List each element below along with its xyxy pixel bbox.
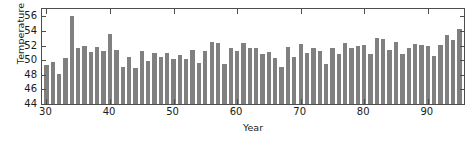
y-axis-tick-mark xyxy=(460,60,464,61)
bar xyxy=(197,63,201,104)
bar xyxy=(152,53,156,104)
bar xyxy=(146,61,150,104)
bar xyxy=(57,74,61,104)
y-axis-tick-mark xyxy=(460,46,464,47)
bar xyxy=(349,48,353,104)
y-axis-tick-mark xyxy=(460,89,464,90)
bar xyxy=(368,54,372,104)
bar xyxy=(445,35,449,104)
bar xyxy=(114,50,118,104)
x-axis-tick-label: 40 xyxy=(103,106,116,117)
x-axis-tick-mark xyxy=(301,99,302,104)
bar xyxy=(375,38,379,105)
x-axis-tick-mark xyxy=(110,9,111,14)
y-axis-tick-label: 54 xyxy=(24,24,37,35)
bar xyxy=(70,16,74,104)
x-axis-tick-label: 50 xyxy=(166,106,179,117)
x-axis-tick-mark xyxy=(174,9,175,14)
y-axis-tick-label: 44 xyxy=(24,98,37,109)
bar xyxy=(229,48,233,104)
y-axis-tick-label: 46 xyxy=(24,83,37,94)
bar xyxy=(222,64,226,104)
y-axis-tick-mark xyxy=(42,16,46,17)
bar xyxy=(248,48,252,104)
bar xyxy=(451,40,455,104)
x-axis-tick-mark xyxy=(428,99,429,104)
bar xyxy=(121,67,125,104)
bar xyxy=(140,51,144,104)
bar xyxy=(108,34,112,104)
bar xyxy=(394,42,398,104)
bar xyxy=(400,54,404,104)
bar xyxy=(337,54,341,104)
y-axis-tick-mark xyxy=(42,104,46,105)
x-axis-tick-label: 80 xyxy=(357,106,370,117)
y-axis-tick-label: 50 xyxy=(24,54,37,65)
x-axis-tick-mark xyxy=(46,9,47,14)
bar xyxy=(210,42,214,104)
bar xyxy=(89,52,93,104)
x-axis-tick-mark xyxy=(364,9,365,14)
bar xyxy=(381,39,385,104)
bar xyxy=(356,46,360,104)
bar xyxy=(82,46,86,104)
y-axis-tick-mark xyxy=(42,75,46,76)
bar xyxy=(171,59,175,104)
bar xyxy=(203,51,207,104)
plot-area xyxy=(41,8,465,105)
x-axis-tick-mark xyxy=(428,9,429,14)
x-axis-tick-mark xyxy=(237,9,238,14)
bar xyxy=(457,29,461,104)
bar xyxy=(419,45,423,104)
bar xyxy=(292,57,296,105)
bar xyxy=(267,52,271,104)
x-axis-tick-mark xyxy=(364,99,365,104)
bar xyxy=(133,68,137,104)
bar xyxy=(63,58,67,104)
x-axis-tick-label: 70 xyxy=(293,106,306,117)
x-axis-title: Year xyxy=(41,122,465,133)
bar-series xyxy=(42,9,464,104)
bar xyxy=(387,50,391,104)
y-axis-tick-label: 48 xyxy=(24,68,37,79)
bar xyxy=(178,55,182,104)
y-axis-tick-mark xyxy=(42,89,46,90)
bar xyxy=(432,56,436,104)
bar xyxy=(426,46,430,104)
x-axis-tick-label: 30 xyxy=(39,106,52,117)
x-axis-tick-mark xyxy=(301,9,302,14)
bar xyxy=(413,44,417,104)
y-axis-tick-mark xyxy=(460,16,464,17)
bar xyxy=(165,53,169,104)
bar xyxy=(51,62,55,104)
bar xyxy=(184,59,188,104)
x-axis-tick-labels: 30405060708090 xyxy=(41,106,465,122)
bar xyxy=(159,57,163,105)
bar xyxy=(286,47,290,104)
y-axis-tick-label: 52 xyxy=(24,39,37,50)
bar xyxy=(279,67,283,104)
bar xyxy=(101,51,105,104)
x-axis-tick-mark xyxy=(46,99,47,104)
x-axis-tick-label: 90 xyxy=(420,106,433,117)
bar xyxy=(254,48,258,104)
x-axis-tick-mark xyxy=(174,99,175,104)
bar xyxy=(235,51,239,104)
bar xyxy=(241,43,245,104)
x-axis-tick-mark xyxy=(237,99,238,104)
y-axis-tick-labels: 44464850525456 xyxy=(0,0,40,144)
bar xyxy=(407,48,411,104)
temperature-bar-chart: Temperature 44464850525456 3040506070809… xyxy=(0,0,472,144)
bar xyxy=(260,54,264,104)
bar xyxy=(216,43,220,104)
bar xyxy=(318,51,322,104)
bar xyxy=(362,45,366,104)
bar xyxy=(324,64,328,104)
bar xyxy=(299,44,303,104)
y-axis-tick-mark xyxy=(42,46,46,47)
bar xyxy=(76,48,80,104)
y-axis-tick-mark xyxy=(460,75,464,76)
bar xyxy=(305,53,309,104)
bar xyxy=(95,47,99,104)
y-axis-tick-label: 56 xyxy=(24,10,37,21)
